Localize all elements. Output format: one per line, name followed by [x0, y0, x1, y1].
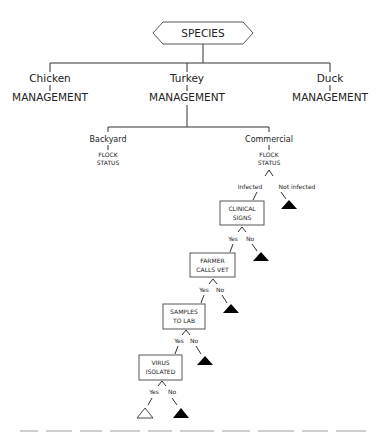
no-label: No: [168, 388, 176, 395]
branch-infected-label: Infected: [238, 183, 263, 190]
yes-connector: [230, 244, 233, 252]
no-label: No: [216, 286, 224, 293]
flock-status-line1: FLOCK: [259, 151, 279, 158]
management-name: Backyard: [90, 135, 127, 144]
flock-status-line1: FLOCK: [98, 151, 118, 158]
yes-connector: [175, 346, 178, 354]
species-node-chicken: Chicken MANAGEMENT: [12, 72, 88, 103]
step-caret: [209, 279, 217, 284]
species-sublabel: MANAGEMENT: [149, 91, 225, 103]
step-line1: CLINICAL: [228, 205, 256, 212]
end-triangle-filled: [173, 408, 189, 418]
no-connector: [222, 295, 227, 303]
end-triangle-filled: [253, 252, 269, 261]
yes-connector: [148, 398, 152, 405]
faded-caption: [20, 430, 366, 432]
step-line2: TO LAB: [172, 317, 195, 324]
step-line2: ISOLATED: [146, 368, 176, 375]
management-node-commercial: Commercial FLOCK STATUS: [245, 135, 293, 166]
yes-connector: [201, 295, 204, 303]
root-node: SPECIES: [153, 22, 253, 44]
yes-label: Yes: [148, 388, 159, 395]
end-triangle-open: [137, 408, 153, 418]
step-line2: SIGNS: [233, 214, 252, 221]
not-infected-connector: [281, 192, 286, 199]
species-node-duck: Duck MANAGEMENT: [292, 72, 368, 103]
caption-mark: [222, 430, 250, 432]
yes-label: Yes: [198, 286, 209, 293]
yes-label: Yes: [227, 235, 238, 242]
caption-mark: [46, 430, 72, 432]
species-name: Chicken: [29, 72, 71, 84]
caption-mark: [80, 430, 102, 432]
caption-mark: [180, 430, 214, 432]
step-caret: [238, 227, 246, 232]
step-line2: CALLS VET: [196, 266, 229, 273]
branch-not-infected-label: Not infected: [279, 183, 316, 190]
species-node-turkey: Turkey MANAGEMENT: [149, 72, 225, 103]
caption-mark: [336, 430, 366, 432]
end-triangle-filled: [281, 200, 297, 209]
no-connector: [196, 346, 201, 354]
species-name: Turkey: [169, 72, 204, 84]
yes-label: Yes: [173, 337, 184, 344]
flock-status-line2: STATUS: [258, 159, 281, 166]
end-triangle-filled: [197, 356, 213, 365]
step-line1: SAMPLES: [170, 308, 198, 315]
species-sublabel: MANAGEMENT: [292, 91, 368, 103]
end-triangle-filled: [223, 304, 239, 313]
step-caret: [158, 381, 166, 386]
species-sublabel: MANAGEMENT: [12, 91, 88, 103]
species-name: Duck: [317, 72, 345, 84]
caption-mark: [148, 430, 172, 432]
caption-mark: [110, 430, 140, 432]
step-line1: VIRUS: [151, 359, 169, 366]
management-name: Commercial: [245, 135, 293, 144]
step-caret: [182, 330, 190, 335]
root-label: SPECIES: [181, 27, 225, 39]
management-node-backyard: Backyard FLOCK STATUS: [90, 135, 127, 166]
infected-connector: [253, 192, 257, 200]
step-line1: FARMER: [200, 257, 224, 264]
step-clinical-signs: CLINICAL SIGNS Yes No: [220, 201, 269, 261]
caption-mark: [302, 430, 328, 432]
caption-mark: [258, 430, 294, 432]
flock-status-line2: STATUS: [97, 159, 120, 166]
flock-status-caret: [265, 170, 273, 176]
no-connector: [252, 244, 257, 251]
step-virus-isolated: VIRUS ISOLATED Yes No: [137, 355, 189, 418]
no-label: No: [190, 337, 198, 344]
no-connector: [172, 398, 177, 405]
no-label: No: [246, 235, 254, 242]
caption-mark: [20, 430, 38, 432]
species-decision-tree: SPECIES Chicken MANAGEMENT Turkey MANAGE…: [0, 0, 384, 435]
